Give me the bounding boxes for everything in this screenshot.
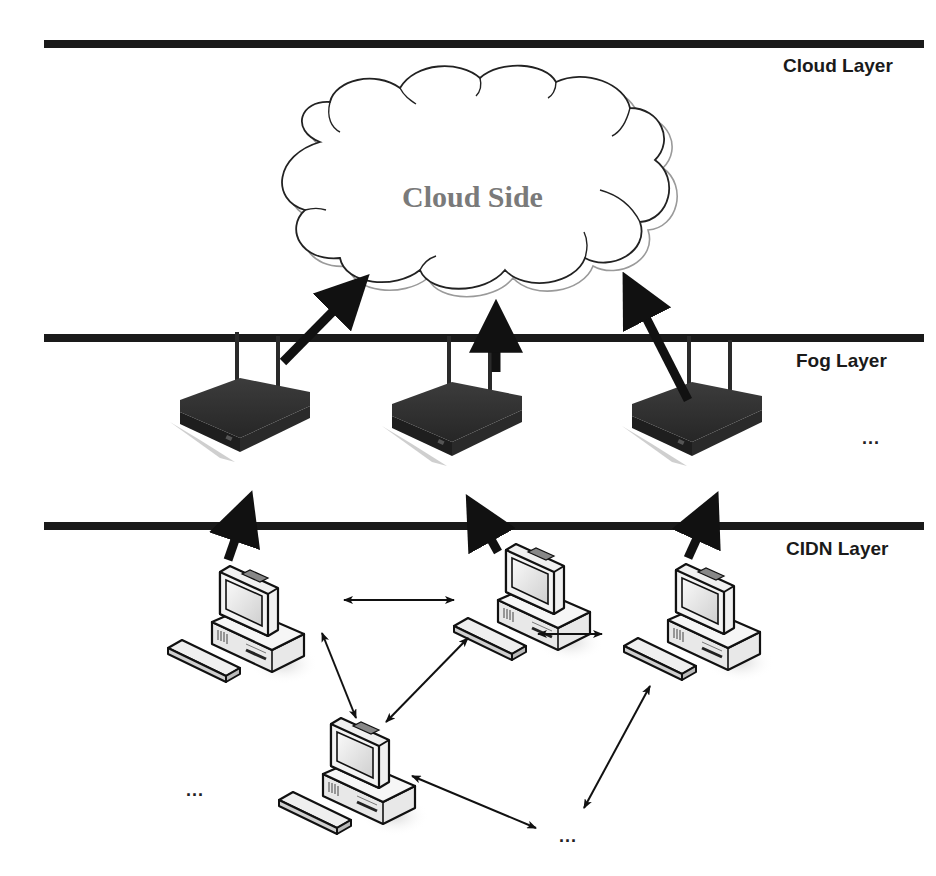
uplink-arrow [283, 292, 352, 362]
cidn-more-left-indicator: ... [186, 780, 204, 801]
uplink-arrow [478, 516, 498, 552]
fog-layer-line [44, 334, 924, 342]
cloud-side-label: Cloud Side [402, 180, 543, 214]
diagram-canvas [0, 0, 936, 876]
uplink-arrow [688, 514, 708, 558]
wireless-router-icon [622, 336, 762, 466]
peer-link-arrow [412, 776, 536, 828]
desktop-computer-icon [624, 564, 774, 682]
uplink-arrow [228, 514, 244, 560]
peer-link-arrow [322, 633, 356, 718]
fog-layer-label: Fog Layer [796, 350, 887, 372]
uplink-arrow [634, 294, 688, 400]
desktop-computer-icon [279, 718, 429, 836]
cidn-more-bottom-indicator: ... [559, 826, 577, 847]
cloud-layer-line [44, 40, 924, 48]
wireless-router-icon [382, 336, 522, 466]
cidn-layer-label: CIDN Layer [786, 538, 888, 560]
cloud-layer-label: Cloud Layer [783, 55, 893, 77]
peer-link-arrow [386, 638, 468, 722]
desktop-computer-icon [168, 566, 318, 684]
fog-architecture-diagram: Cloud Layer Fog Layer CIDN Layer Cloud S… [0, 0, 936, 876]
desktop-computer-icon [454, 544, 604, 662]
fog-more-indicator: ... [862, 428, 880, 449]
peer-link-arrow [584, 686, 650, 808]
